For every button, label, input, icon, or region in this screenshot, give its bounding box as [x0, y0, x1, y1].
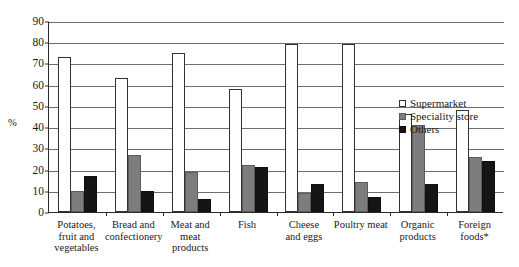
x-axis-label: Cheeseand eggs	[276, 219, 333, 242]
bar-speciality	[71, 191, 84, 212]
bar-speciality	[128, 155, 141, 212]
x-axis-label: Potatoes,fruit andvegetables	[48, 219, 105, 254]
bar-others	[198, 199, 211, 212]
bar-group	[220, 22, 277, 212]
bar-speciality	[298, 193, 311, 212]
x-tick-mark	[390, 212, 391, 216]
x-axis-label: Poultry meat	[332, 219, 389, 231]
y-tick-label: 60	[33, 80, 45, 92]
bar-others	[311, 184, 324, 212]
x-tick-mark	[106, 212, 107, 216]
y-tick-mark	[45, 43, 49, 44]
gridline	[49, 171, 504, 172]
x-axis-label-line: Cheese	[276, 219, 333, 231]
gridline	[49, 149, 504, 150]
bar-group	[333, 22, 390, 212]
x-axis-label: Bread andconfectionery	[105, 219, 162, 242]
bar-speciality	[412, 125, 425, 212]
y-tick-label: 80	[33, 37, 45, 49]
x-axis-label-line: Potatoes,	[48, 219, 105, 231]
x-axis-label: Organicproducts	[389, 219, 446, 242]
x-axis-label-line: vegetables	[48, 242, 105, 254]
y-tick-mark	[45, 106, 49, 107]
bar-others	[84, 176, 97, 212]
grouped-bar-chart: % 0102030405060708090 Potatoes,fruit and…	[0, 0, 519, 267]
x-axis-label-line: Bread and	[105, 219, 162, 231]
gridline	[49, 43, 504, 44]
y-tick-label: 50	[33, 101, 45, 113]
bar-group	[163, 22, 220, 212]
y-tick-mark	[45, 128, 49, 129]
gridline	[49, 192, 504, 193]
x-axis-label: Meat andmeatproducts	[162, 219, 219, 254]
legend-swatch-supermarket	[399, 100, 406, 107]
x-tick-mark	[163, 212, 164, 216]
bar-group	[277, 22, 334, 212]
x-tick-mark	[220, 212, 221, 216]
bar-speciality	[355, 182, 368, 212]
y-tick-label: 0	[38, 207, 44, 219]
legend-swatch-speciality	[399, 113, 406, 120]
gridline	[49, 64, 504, 65]
y-tick-label: 10	[33, 186, 45, 198]
gridline	[49, 86, 504, 87]
legend-label: Speciality store	[410, 111, 478, 122]
legend-label: Others	[410, 124, 439, 135]
bar-group	[49, 22, 106, 212]
x-axis-label-line: products	[162, 242, 219, 254]
y-tick-mark	[45, 213, 49, 214]
bar-group	[106, 22, 163, 212]
legend-swatch-others	[399, 126, 406, 133]
y-tick-label: 20	[33, 165, 45, 177]
x-axis-label-line: Poultry meat	[332, 219, 389, 231]
x-axis-label-line: products	[389, 231, 446, 243]
y-tick-mark	[45, 85, 49, 86]
x-axis-label-line: foods*	[446, 231, 503, 243]
y-tick-mark	[45, 149, 49, 150]
gridline	[49, 22, 504, 23]
x-axis-label-line: meat	[162, 231, 219, 243]
bar-others	[255, 167, 268, 212]
bar-supermarket	[58, 57, 71, 212]
y-tick-label: 40	[33, 122, 45, 134]
x-axis-label-line: Meat and	[162, 219, 219, 231]
bar-others	[368, 197, 381, 212]
x-tick-mark	[447, 212, 448, 216]
bar-others	[482, 161, 495, 212]
x-tick-mark	[333, 212, 334, 216]
bar-supermarket	[172, 53, 185, 212]
y-tick-label: 90	[33, 16, 45, 28]
bar-speciality	[469, 157, 482, 212]
x-axis-label: Foreignfoods*	[446, 219, 503, 242]
x-axis-label-line: fruit and	[48, 231, 105, 243]
legend-label: Supermarket	[410, 98, 466, 109]
bar-others	[425, 184, 438, 212]
legend-item-supermarket: Supermarket	[399, 97, 478, 110]
bar-others	[141, 191, 154, 212]
x-axis-label-line: confectionery	[105, 231, 162, 243]
legend-item-speciality: Speciality store	[399, 110, 478, 123]
legend-item-others: Others	[399, 123, 478, 136]
y-tick-mark	[45, 191, 49, 192]
x-axis-label-line: Organic	[389, 219, 446, 231]
y-tick-label: 70	[33, 59, 45, 71]
bar-speciality	[242, 165, 255, 212]
y-axis-title: %	[8, 118, 17, 129]
y-tick-mark	[45, 170, 49, 171]
x-axis-label-line: and eggs	[276, 231, 333, 243]
chart-legend: SupermarketSpeciality storeOthers	[399, 97, 478, 136]
x-tick-mark	[277, 212, 278, 216]
x-axis-label-line: Fish	[219, 219, 276, 231]
y-tick-mark	[45, 22, 49, 23]
x-axis-label-line: Foreign	[446, 219, 503, 231]
y-tick-label: 30	[33, 144, 45, 156]
x-axis-label: Fish	[219, 219, 276, 231]
y-tick-mark	[45, 64, 49, 65]
